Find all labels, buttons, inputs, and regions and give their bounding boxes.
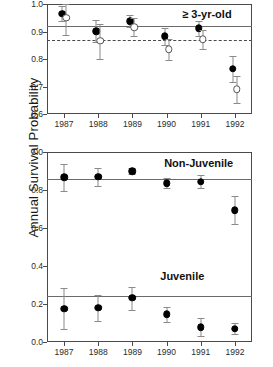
error-bar-cap xyxy=(131,18,138,19)
error-bar-cap xyxy=(229,82,236,83)
filled-circle-marker xyxy=(229,65,237,73)
filled-circle-marker xyxy=(60,305,68,313)
filled-circle-marker xyxy=(95,173,103,181)
error-bar-cap xyxy=(195,21,202,22)
error-bar-cap xyxy=(231,224,238,225)
x-axis-tick xyxy=(132,342,133,346)
y-axis-tick xyxy=(43,59,47,60)
x-axis-tick xyxy=(167,342,168,346)
x-axis-tick xyxy=(98,342,99,346)
y-axis-tick-label: 0.0 xyxy=(31,337,43,347)
error-bar-cap xyxy=(231,196,238,197)
filled-circle-marker xyxy=(60,174,68,182)
open-circle-marker xyxy=(199,36,207,44)
error-bar-cap xyxy=(61,164,68,165)
x-axis-tick-label: 1990 xyxy=(157,347,176,357)
y-axis-title-left: Annual Survival Probability xyxy=(26,43,41,273)
filled-circle-marker xyxy=(197,323,205,331)
error-bar-cap xyxy=(59,6,66,7)
filled-circle-marker xyxy=(231,325,239,333)
solid-reference-line xyxy=(47,26,252,27)
y-axis-tick-label: 0.7 xyxy=(31,82,43,92)
x-axis-tick-label: 1992 xyxy=(225,347,244,357)
filled-circle-marker xyxy=(231,206,239,214)
error-bar-cap xyxy=(199,49,206,50)
chart-panel-bottom: 0.00.20.40.60.81.01987198819891990199119… xyxy=(47,152,252,342)
error-bar-cap xyxy=(63,35,70,36)
y-axis-tick-label: 0.6 xyxy=(31,109,43,119)
y-axis-tick xyxy=(43,87,47,88)
error-bar-cap xyxy=(61,329,68,330)
y-axis-tick-label: 0.9 xyxy=(31,27,43,37)
x-axis-tick-label: 1991 xyxy=(191,347,210,357)
error-bar-cap xyxy=(163,307,170,308)
error-bar-cap xyxy=(161,28,168,29)
x-axis-tick-label: 1988 xyxy=(89,347,108,357)
x-axis-tick xyxy=(98,114,99,118)
non-juvenile-reference-line xyxy=(47,179,252,180)
y-axis-tick xyxy=(43,114,47,115)
error-bar-cap xyxy=(95,295,102,296)
error-bar-cap xyxy=(231,334,238,335)
x-axis-tick-label: 1989 xyxy=(123,347,142,357)
error-bar-cap xyxy=(233,76,240,77)
error-bar-cap xyxy=(199,30,206,31)
y-axis-tick-label: 0.2 xyxy=(31,299,43,309)
open-circle-marker xyxy=(62,14,70,22)
y-axis-tick xyxy=(43,266,47,267)
dashed-reference-line xyxy=(47,40,252,41)
error-bar-cap xyxy=(97,59,104,60)
plot-frame-bottom xyxy=(47,152,252,342)
open-circle-marker xyxy=(97,37,105,45)
x-axis-tick-label: 1987 xyxy=(55,119,74,129)
error-bar-cap xyxy=(95,168,102,169)
error-bar-cap xyxy=(197,336,204,337)
y-axis-tick xyxy=(43,304,47,305)
x-axis-tick-label: 1990 xyxy=(157,119,176,129)
error-bar-cap xyxy=(197,318,204,319)
filled-circle-marker xyxy=(163,311,171,319)
error-bar-cap xyxy=(93,20,100,21)
x-axis-tick-label: 1988 xyxy=(89,119,108,129)
y-axis-tick-label: 0.8 xyxy=(31,54,43,64)
x-axis-tick xyxy=(201,114,202,118)
error-bar-cap xyxy=(95,321,102,322)
x-axis-tick-label: 1992 xyxy=(225,119,244,129)
x-axis-tick-label: 1991 xyxy=(191,119,210,129)
error-bar-cap xyxy=(233,103,240,104)
x-axis-tick xyxy=(64,114,65,118)
error-bar-cap xyxy=(131,36,138,37)
error-bar-cap xyxy=(229,56,236,57)
open-circle-marker xyxy=(233,86,241,94)
error-bar-cap xyxy=(165,39,172,40)
error-bar-cap xyxy=(165,60,172,61)
filled-circle-marker xyxy=(95,304,103,312)
figure: Annual Survival Probability Annual Survi… xyxy=(0,0,273,367)
error-bar-cap xyxy=(127,15,134,16)
chart-panel-top: 0.60.70.80.91.0198719881989199019911992≥… xyxy=(47,4,252,114)
filled-circle-marker xyxy=(129,294,137,302)
juvenile-reference-line xyxy=(47,296,252,297)
error-bar-cap xyxy=(63,4,70,5)
y-axis-tick xyxy=(43,190,47,191)
error-bar-cap xyxy=(197,188,204,189)
error-bar-cap xyxy=(97,24,104,25)
juvenile-label: Juvenile xyxy=(160,270,204,282)
non-juvenile-label: Non-Juvenile xyxy=(164,157,233,169)
y-axis-tick-label: 1.0 xyxy=(31,0,43,9)
y-axis-tick xyxy=(43,152,47,153)
error-bar-cap xyxy=(197,175,204,176)
x-axis-tick-label: 1989 xyxy=(123,119,142,129)
filled-circle-marker xyxy=(197,178,205,186)
filled-circle-marker xyxy=(163,179,171,187)
y-axis-tick-label: 0.6 xyxy=(31,223,43,233)
age-class-annotation: ≥ 3-yr-old xyxy=(182,8,231,20)
x-axis-tick xyxy=(201,342,202,346)
plot-frame-top xyxy=(47,4,252,114)
y-axis-tick xyxy=(43,228,47,229)
y-axis-tick-label: 1.0 xyxy=(31,147,43,157)
x-axis-tick xyxy=(167,114,168,118)
y-axis-tick-label: 0.8 xyxy=(31,185,43,195)
x-axis-tick xyxy=(64,342,65,346)
y-axis-tick-label: 0.4 xyxy=(31,261,43,271)
